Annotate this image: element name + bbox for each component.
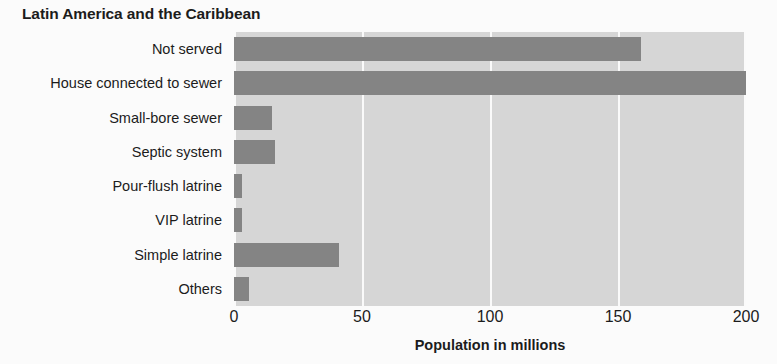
bar-chart-figure: Latin America and the Caribbean Not serv…	[0, 0, 777, 364]
bar-row	[234, 66, 746, 100]
bar-row	[234, 169, 746, 203]
category-label: Simple latrine	[134, 238, 222, 272]
category-label: VIP latrine	[155, 203, 222, 237]
bar-row	[234, 135, 746, 169]
bar	[234, 37, 641, 61]
x-axis-tick-labels: 050100150200	[234, 308, 746, 332]
x-tick-label: 0	[230, 308, 239, 326]
bar	[234, 71, 746, 95]
bar-row	[234, 32, 746, 66]
category-label: Septic system	[132, 135, 222, 169]
bar-rows	[234, 32, 746, 306]
bar	[234, 106, 272, 130]
category-label: Pour-flush latrine	[112, 169, 222, 203]
bar	[234, 174, 242, 198]
bar-row	[234, 101, 746, 135]
category-label: Small-bore sewer	[109, 101, 222, 135]
bar-row	[234, 203, 746, 237]
bar-row	[234, 272, 746, 306]
x-tick-label: 100	[477, 308, 504, 326]
x-tick-label: 150	[605, 308, 632, 326]
category-axis-labels: Not servedHouse connected to sewerSmall-…	[0, 32, 228, 306]
x-tick-label: 50	[353, 308, 371, 326]
category-label: Not served	[152, 32, 222, 66]
bar	[234, 277, 249, 301]
bar-row	[234, 238, 746, 272]
x-tick-label: 200	[733, 308, 760, 326]
category-label: Others	[178, 272, 222, 306]
x-axis-title: Population in millions	[234, 337, 746, 353]
plot-area	[234, 32, 746, 306]
bar	[234, 243, 339, 267]
bar	[234, 208, 242, 232]
chart-title: Latin America and the Caribbean	[22, 5, 260, 23]
category-label: House connected to sewer	[50, 66, 222, 100]
bar	[234, 140, 275, 164]
